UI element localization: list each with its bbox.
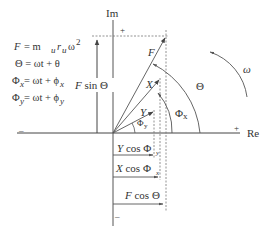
- svg-text:X cos Φ: X cos Φ: [115, 162, 151, 174]
- svg-text:= ωt + ϕ: = ωt + ϕ: [24, 75, 60, 86]
- vector-y-label: Y: [140, 106, 148, 118]
- svg-text:= ωt + ϕ: = ωt + ϕ: [24, 92, 60, 103]
- phi-x-label: Φ x: [175, 107, 188, 121]
- svg-text:y: y: [144, 122, 148, 130]
- svg-text:Φ: Φ: [12, 92, 20, 103]
- im-label: Im: [106, 7, 119, 19]
- equation-phi-y: Φ y = ωt + ϕ y: [12, 92, 64, 106]
- svg-text:x: x: [59, 79, 64, 89]
- svg-text:= m: = m: [24, 41, 41, 52]
- svg-text:y: y: [155, 149, 160, 157]
- svg-text:ω: ω: [68, 41, 75, 52]
- plus-right: +: [234, 123, 239, 133]
- vector-f-label: F: [147, 46, 155, 58]
- svg-text:y: y: [59, 96, 64, 106]
- minus-left: –: [18, 125, 24, 135]
- vector-x-label: X: [145, 78, 154, 90]
- minus-bottom: –: [114, 211, 120, 221]
- svg-text:Y cos Φ: Y cos Φ: [117, 142, 151, 154]
- omega-label: ω: [243, 63, 251, 75]
- equation-force: F = m u r u ω 2: [13, 37, 81, 55]
- equation-phi-x: Φ x = ωt + ϕ x: [12, 75, 64, 89]
- x-cos-label: X cos Φ x: [115, 162, 160, 177]
- phi-y-label: Φ y: [137, 118, 148, 130]
- svg-text:u: u: [62, 45, 67, 55]
- theta-arc: [153, 64, 200, 133]
- theta-label: Θ: [196, 80, 204, 92]
- svg-text:x: x: [183, 111, 188, 121]
- svg-text:2: 2: [76, 37, 81, 47]
- svg-text:F: F: [13, 41, 21, 52]
- equation-theta: Θ = ωt + θ: [15, 58, 60, 69]
- svg-text:Φ: Φ: [175, 107, 183, 119]
- f-sin-theta-label: F sin Θ: [74, 79, 108, 91]
- phasor-diagram: F = m u r u ω 2 Θ = ωt + θ Φ x = ωt + ϕ …: [0, 0, 276, 235]
- f-cos-label: F cos Θ: [124, 189, 160, 201]
- svg-text:Φ: Φ: [12, 75, 20, 86]
- plus-top: +: [120, 25, 125, 35]
- re-label: Re: [247, 127, 259, 139]
- svg-text:x: x: [155, 169, 160, 177]
- svg-text:Φ: Φ: [137, 118, 144, 128]
- omega-arrow: [210, 52, 247, 97]
- phi-y-arc: [132, 123, 135, 133]
- svg-text:u: u: [51, 45, 56, 55]
